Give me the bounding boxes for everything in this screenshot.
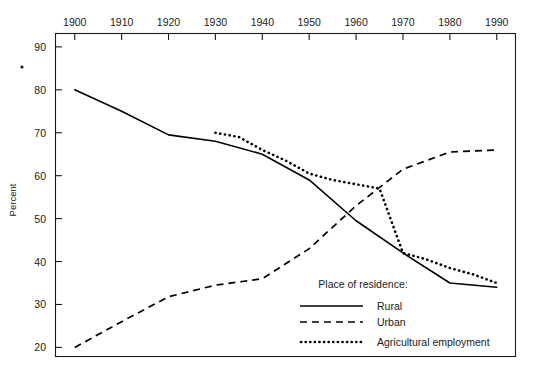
series-rural — [75, 90, 497, 288]
x-axis-tick-labels: 1900191019201930194019501960197019801990 — [63, 16, 509, 28]
series-urban — [75, 150, 497, 347]
y-tick-label: 20 — [34, 341, 46, 353]
x-tick-label: 1920 — [157, 16, 181, 28]
x-tick-label: 1930 — [204, 16, 228, 28]
x-tick-label: 1940 — [251, 16, 275, 28]
x-tick-label: 1990 — [485, 16, 509, 28]
y-tick-label: 40 — [34, 256, 46, 268]
legend-label-agricultural-employment: Agricultural employment — [377, 336, 490, 348]
y-axis-title: Percent — [7, 183, 18, 216]
chart-legend: Place of residence: Rural Urban Agricult… — [300, 278, 490, 348]
data-series-group — [75, 90, 497, 348]
line-chart: 1900191019201930194019501960197019801990… — [0, 0, 534, 367]
x-tick-label: 1950 — [298, 16, 322, 28]
y-tick-label: 70 — [34, 127, 46, 139]
y-tick-label: 60 — [34, 170, 46, 182]
legend-label-rural: Rural — [377, 300, 402, 312]
x-axis-ticks — [75, 34, 497, 40]
y-axis-ticks — [56, 47, 62, 348]
chart-container: 1900191019201930194019501960197019801990… — [0, 0, 534, 367]
series-agricultural-employment — [215, 133, 496, 283]
x-tick-label: 1960 — [344, 16, 368, 28]
plot-frame — [56, 34, 516, 357]
y-tick-label: 80 — [34, 84, 46, 96]
print-artifact-dot — [20, 65, 23, 68]
y-tick-label: 30 — [34, 298, 46, 310]
y-tick-label: 50 — [34, 213, 46, 225]
x-tick-label: 1980 — [438, 16, 462, 28]
x-tick-label: 1970 — [391, 16, 415, 28]
x-tick-label: 1910 — [110, 16, 134, 28]
y-tick-label: 90 — [34, 41, 46, 53]
y-axis-tick-labels: 2030405060708090 — [34, 41, 46, 354]
legend-label-urban: Urban — [377, 316, 406, 328]
x-tick-label: 1900 — [63, 16, 87, 28]
legend-title: Place of residence: — [318, 278, 407, 290]
